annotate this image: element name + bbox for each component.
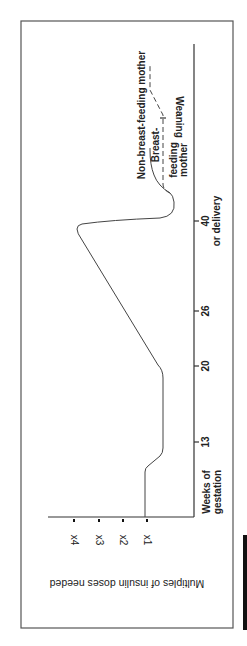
y-axis-label: Multiples of insulin doses needed [50, 578, 205, 590]
y-tick-x2 [122, 519, 124, 522]
x-tick-label-20: 20 [200, 360, 211, 372]
x-axis-label-line1: Weeks of [201, 469, 212, 513]
figure-tab [243, 535, 247, 630]
y-tick-label-x4: x4 [69, 535, 80, 546]
x-tick-label-40: 40 [200, 215, 211, 227]
x-axis-label-line2: gestation [212, 470, 223, 514]
x-tick-label-13: 13 [200, 436, 211, 448]
annotation-breast-line1: Breast- [150, 128, 161, 162]
annotation-weaning: Weaning [174, 96, 185, 137]
x-tick-label-26: 26 [200, 305, 211, 317]
y-tick-label-x2: x2 [118, 535, 129, 546]
y-tick-label-x3: x3 [94, 535, 105, 546]
y-tick-x4 [73, 519, 75, 522]
insulin-chart: 13 20 26 40 or delivery Weeks of gestati… [0, 0, 247, 646]
y-tick-x3 [98, 519, 100, 522]
annotation-breast-line3: mother [178, 143, 189, 177]
y-tick-x1 [146, 519, 148, 522]
pregnancy-curve [77, 193, 174, 517]
annotation-non-breast-feeding: Non-breast-feeding mother [136, 51, 147, 179]
x-tick-label-delivery: or delivery [211, 195, 222, 246]
y-tick-label-x1: x1 [142, 535, 153, 546]
